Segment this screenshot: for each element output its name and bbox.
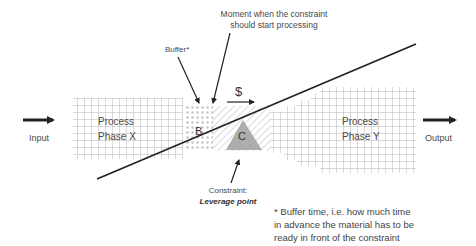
buffer-pointer-arrow <box>178 57 199 103</box>
constraint-annotation-line2: Leverage point <box>192 196 264 207</box>
buffer-annotation: Buffer* <box>165 44 189 56</box>
footnote-line3: ready in front of the constraint <box>274 231 414 244</box>
constraint-annotation-line1: Constraint: <box>192 185 264 196</box>
phase-y-label-line2: Phase Y <box>342 131 380 143</box>
input-label: Input <box>29 132 49 144</box>
constraint-letter: C <box>238 130 246 142</box>
footnote: * Buffer time, i.e. how much time in adv… <box>274 205 414 244</box>
footnote-line2: in advance the material has to be <box>274 218 414 231</box>
money-symbol: $ <box>235 86 242 98</box>
phase-y-label-line1: Process <box>342 116 378 128</box>
phase-x-label-line1: Process <box>98 116 134 128</box>
constraint-annotation: Constraint: Leverage point <box>192 185 264 207</box>
buffer-letter: B <box>195 125 202 137</box>
moment-annotation-line2: should start processing <box>194 20 354 31</box>
output-label: Output <box>425 132 452 144</box>
phase-x-label-line2: Phase X <box>98 131 136 143</box>
moment-annotation-line1: Moment when the constraint <box>194 9 354 20</box>
moment-annotation: Moment when the constraint should start … <box>194 9 354 31</box>
moment-pointer-arrow <box>213 33 230 103</box>
phase-y-block <box>271 87 416 173</box>
footnote-line1: * Buffer time, i.e. how much time <box>274 205 414 218</box>
constraint-pointer-arrow <box>231 160 239 183</box>
